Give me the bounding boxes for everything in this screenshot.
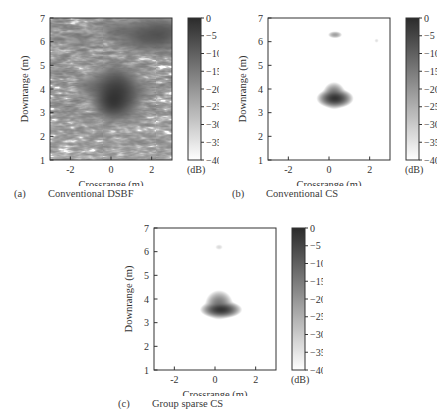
y-tick-label: 5 bbox=[144, 270, 149, 281]
y-tick-label: 7 bbox=[144, 223, 149, 234]
y-tick-label: 2 bbox=[144, 341, 149, 352]
plot-b: -2021234567Crossrange (m)Downrange (m)0−… bbox=[232, 8, 437, 186]
colorbar-tick-label: −30 bbox=[424, 119, 437, 130]
y-tick-label: 5 bbox=[258, 60, 263, 71]
panel-a-title: Conventional DSBF bbox=[48, 188, 133, 199]
colorbar-tick-label: −40 bbox=[206, 155, 219, 166]
y-tick-label: 7 bbox=[40, 13, 45, 24]
x-axis-title: Crossrange (m) bbox=[296, 179, 362, 186]
y-axis-title: Downrange (m) bbox=[237, 55, 249, 122]
colorbar-tick-label: 0 bbox=[206, 13, 211, 24]
colorbar-tick-label: −20 bbox=[310, 294, 323, 305]
colorbar-tick-label: −15 bbox=[206, 66, 219, 77]
y-tick-label: 1 bbox=[144, 365, 149, 376]
panel-c-letter: (c) bbox=[118, 398, 152, 409]
colorbar-tick-label: −5 bbox=[206, 30, 217, 41]
y-tick-label: 3 bbox=[144, 317, 149, 328]
colorbar-tick-label: −25 bbox=[310, 311, 323, 322]
y-tick-label: 1 bbox=[40, 155, 45, 166]
colorbar-tick-label: 0 bbox=[310, 223, 315, 234]
y-tick-label: 5 bbox=[40, 60, 45, 71]
y-tick-label: 4 bbox=[144, 294, 149, 305]
colorbar-tick-label: 0 bbox=[424, 13, 429, 24]
panel-a-caption: (a)Conventional DSBF bbox=[14, 188, 133, 199]
x-axis-title: Crossrange (m) bbox=[182, 389, 248, 396]
y-tick-label: 4 bbox=[258, 84, 263, 95]
panel-b-title: Conventional CS bbox=[266, 188, 338, 199]
colorbar-tick-label: −10 bbox=[206, 48, 219, 59]
colorbar-tick-label: −20 bbox=[206, 84, 219, 95]
x-tick-label: -2 bbox=[284, 164, 292, 175]
y-axis-title: Downrange (m) bbox=[123, 265, 135, 332]
heatmap-image-c bbox=[154, 228, 276, 370]
y-tick-label: 3 bbox=[40, 107, 45, 118]
colorbar-tick-label: −40 bbox=[310, 365, 323, 376]
colorbar-tick-label: −10 bbox=[424, 48, 437, 59]
x-axis-title: Crossrange (m) bbox=[78, 179, 144, 186]
colorbar-tick-label: −25 bbox=[206, 101, 219, 112]
colorbar-tick-label: −15 bbox=[310, 276, 323, 287]
colorbar-a bbox=[188, 18, 201, 160]
y-tick-label: 1 bbox=[258, 155, 263, 166]
y-tick-label: 6 bbox=[258, 36, 263, 47]
panel-c-title: Group sparse CS bbox=[152, 398, 223, 409]
colorbar-tick-label: −25 bbox=[424, 101, 437, 112]
colorbar-tick-label: −35 bbox=[424, 137, 437, 148]
colorbar-b bbox=[406, 18, 419, 160]
x-tick-label: 2 bbox=[367, 164, 372, 175]
y-tick-label: 2 bbox=[40, 131, 45, 142]
plot-a: -2021234567Crossrange (m)Downrange (m)0−… bbox=[14, 8, 219, 186]
colorbar-tick-label: −35 bbox=[310, 347, 323, 358]
colorbar-unit-label: (dB) bbox=[405, 164, 423, 176]
colorbar-tick-label: −10 bbox=[310, 258, 323, 269]
y-tick-label: 6 bbox=[40, 36, 45, 47]
y-tick-label: 3 bbox=[258, 107, 263, 118]
colorbar-tick-label: −20 bbox=[424, 84, 437, 95]
y-tick-label: 6 bbox=[144, 246, 149, 257]
y-axis-title: Downrange (m) bbox=[19, 55, 31, 122]
colorbar-c bbox=[292, 228, 305, 370]
colorbar-tick-label: −30 bbox=[206, 119, 219, 130]
colorbar-unit-label: (dB) bbox=[187, 164, 205, 176]
y-tick-label: 4 bbox=[40, 84, 45, 95]
heatmap-image-a bbox=[50, 18, 172, 160]
panel-b-letter: (b) bbox=[232, 188, 266, 199]
panel-c-caption: (c)Group sparse CS bbox=[118, 398, 223, 409]
y-tick-label: 2 bbox=[258, 131, 263, 142]
x-tick-label: -2 bbox=[66, 164, 74, 175]
colorbar-tick-label: −35 bbox=[206, 137, 219, 148]
plot-c: -2021234567Crossrange (m)Downrange (m)0−… bbox=[118, 218, 323, 396]
figure-container: -2021234567Crossrange (m)Downrange (m)0−… bbox=[0, 0, 438, 419]
colorbar-tick-label: −30 bbox=[310, 329, 323, 340]
y-tick-label: 7 bbox=[258, 13, 263, 24]
colorbar-tick-label: −5 bbox=[424, 30, 435, 41]
colorbar-tick-label: −40 bbox=[424, 155, 437, 166]
colorbar-unit-label: (dB) bbox=[291, 374, 309, 386]
heatmap-image-b bbox=[268, 18, 390, 160]
colorbar-tick-label: −5 bbox=[310, 240, 321, 251]
panel-b: -2021234567Crossrange (m)Downrange (m)0−… bbox=[232, 8, 437, 186]
x-tick-label: 0 bbox=[109, 164, 114, 175]
x-tick-label: 2 bbox=[253, 374, 258, 385]
panel-c: -2021234567Crossrange (m)Downrange (m)0−… bbox=[118, 218, 323, 396]
colorbar-tick-label: −15 bbox=[424, 66, 437, 77]
x-tick-label: -2 bbox=[170, 374, 178, 385]
panel-a: -2021234567Crossrange (m)Downrange (m)0−… bbox=[14, 8, 219, 186]
panel-a-letter: (a) bbox=[14, 188, 48, 199]
x-tick-label: 2 bbox=[149, 164, 154, 175]
x-tick-label: 0 bbox=[327, 164, 332, 175]
panel-b-caption: (b)Conventional CS bbox=[232, 188, 338, 199]
x-tick-label: 0 bbox=[213, 374, 218, 385]
